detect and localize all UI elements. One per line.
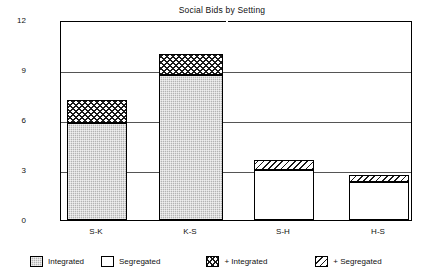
plot-area bbox=[60, 21, 412, 221]
legend-swatch-plus-integrated-icon bbox=[206, 256, 219, 267]
bar-s-k[interactable] bbox=[67, 100, 127, 220]
chart-root: Social Bids by Setting 12 9 6 3 0 Bids p… bbox=[0, 0, 444, 275]
y-tick-label-0: 0 bbox=[0, 216, 26, 225]
y-tick-label-3: 3 bbox=[0, 166, 26, 175]
bar-segment-plus-segregated bbox=[254, 160, 314, 170]
bar-segment-segregated bbox=[349, 182, 409, 220]
bar-k-s[interactable] bbox=[159, 54, 223, 220]
chart-title: Social Bids by Setting bbox=[0, 5, 444, 15]
axis-break-mark bbox=[226, 21, 228, 24]
y-tick-label-9: 9 bbox=[0, 66, 26, 75]
legend-swatch-plus-segregated-icon bbox=[315, 256, 328, 267]
bar-segment-integrated bbox=[159, 75, 223, 220]
legend-item-segregated[interactable]: Segregated bbox=[101, 256, 160, 267]
legend-label-segregated: Segregated bbox=[119, 257, 160, 266]
y-tick-label-6: 6 bbox=[0, 116, 26, 125]
gridline-9 bbox=[61, 72, 411, 73]
y-axis-label-wrap: Bids per Observation bbox=[14, 190, 15, 191]
legend-label-plus-segregated: + Segregated bbox=[333, 257, 381, 266]
chart-legend: Integrated Segregated + Integrated + Seg… bbox=[30, 252, 440, 270]
y-tick-label-12: 12 bbox=[0, 16, 26, 25]
x-tick-label-s-h: S-H bbox=[253, 227, 313, 236]
bar-segment-plus-integrated bbox=[67, 100, 127, 123]
legend-item-plus-segregated[interactable]: + Segregated bbox=[315, 256, 381, 267]
legend-item-integrated[interactable]: Integrated bbox=[30, 256, 84, 267]
x-tick-label-h-s: H-S bbox=[348, 227, 408, 236]
x-tick-label-s-k: S-K bbox=[66, 227, 126, 236]
bar-s-h[interactable] bbox=[254, 160, 314, 220]
legend-swatch-integrated-icon bbox=[30, 256, 43, 267]
x-tick-label-k-s: K-S bbox=[158, 227, 222, 236]
bar-segment-plus-integrated bbox=[159, 54, 223, 75]
bar-segment-integrated bbox=[67, 123, 127, 220]
bar-segment-plus-segregated bbox=[349, 175, 409, 182]
legend-label-integrated: Integrated bbox=[48, 257, 84, 266]
legend-swatch-segregated-icon bbox=[101, 256, 114, 267]
legend-item-plus-integrated[interactable]: + Integrated bbox=[206, 256, 267, 267]
legend-label-plus-integrated: + Integrated bbox=[224, 257, 267, 266]
bar-h-s[interactable] bbox=[349, 175, 409, 220]
bar-segment-segregated bbox=[254, 170, 314, 220]
